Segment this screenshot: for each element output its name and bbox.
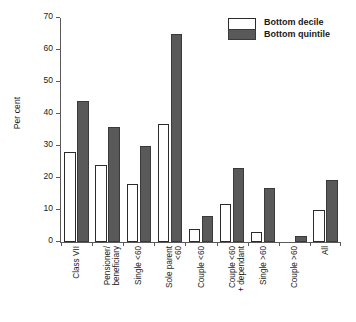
y-tick-mark bbox=[56, 17, 60, 18]
y-tick-label: 50 bbox=[44, 75, 53, 86]
bar-bottom-quintile bbox=[171, 34, 183, 242]
x-axis-labels: Class VIIPensioner/beneficiarySingle <60… bbox=[61, 246, 341, 322]
legend-labels: Bottom decile Bottom quintile bbox=[264, 17, 330, 40]
bar-group bbox=[123, 18, 154, 242]
x-axis-label-line: All bbox=[321, 246, 330, 255]
bar-group bbox=[217, 18, 248, 242]
y-tick-mark bbox=[56, 49, 60, 50]
bar-bottom-decile bbox=[189, 229, 201, 242]
bar-bottom-quintile bbox=[140, 146, 152, 242]
legend-swatch-bottom-decile bbox=[228, 18, 256, 29]
bar-bottom-decile bbox=[64, 152, 76, 242]
legend-label-bottom-decile: Bottom decile bbox=[264, 17, 330, 29]
x-axis-label: Couple >60 bbox=[290, 246, 299, 322]
x-axis-label: Pensioner/beneficiary bbox=[103, 246, 122, 322]
bar-bottom-decile bbox=[313, 210, 325, 242]
y-axis-title: Per cent bbox=[12, 78, 22, 148]
bar-bottom-quintile bbox=[295, 236, 307, 242]
bars-layer bbox=[61, 18, 341, 242]
y-axis-tick: 50 bbox=[34, 81, 60, 82]
bar-group bbox=[185, 18, 216, 242]
y-tick-label: 40 bbox=[44, 107, 53, 118]
bar-group bbox=[279, 18, 310, 242]
x-axis-label-line: Couple <60 bbox=[197, 246, 206, 288]
x-axis-label: Single >60 bbox=[259, 246, 268, 322]
bar-bottom-quintile bbox=[264, 188, 276, 242]
bar-bottom-decile bbox=[95, 165, 107, 242]
y-axis-tick: 30 bbox=[34, 145, 60, 146]
x-axis-label: Couple <60+ dependant bbox=[228, 246, 247, 322]
bar-chart: Per cent 010203040506070 Class VIIPensio… bbox=[0, 0, 356, 322]
bar-bottom-decile bbox=[220, 204, 232, 242]
x-axis-label: Couple <60 bbox=[197, 246, 206, 322]
legend-swatch-bottom-quintile bbox=[228, 29, 256, 40]
y-tick-label: 10 bbox=[44, 203, 53, 214]
bar-group bbox=[310, 18, 341, 242]
x-axis-label-line: Pensioner/ bbox=[103, 246, 112, 285]
bar-group bbox=[154, 18, 185, 242]
y-axis-tick: 20 bbox=[34, 177, 60, 178]
bar-bottom-quintile bbox=[77, 101, 89, 242]
x-axis-label-line: beneficiary bbox=[113, 246, 122, 322]
y-tick-label: 0 bbox=[48, 235, 53, 246]
bar-group bbox=[248, 18, 279, 242]
x-axis-label-line: Class VII bbox=[72, 246, 81, 279]
x-axis-label-line: <60 bbox=[175, 246, 184, 322]
y-axis-tick: 60 bbox=[34, 49, 60, 50]
x-axis-label-line: + dependant bbox=[237, 246, 246, 322]
plot-area: 010203040506070 bbox=[60, 18, 341, 243]
y-tick-mark bbox=[56, 113, 60, 114]
legend-label-bottom-quintile: Bottom quintile bbox=[264, 29, 330, 41]
bar-bottom-quintile bbox=[108, 127, 120, 242]
x-axis-line bbox=[60, 242, 341, 243]
x-axis-label: Sole parent<60 bbox=[165, 246, 184, 322]
x-axis-label-line: Sole parent bbox=[165, 246, 174, 288]
bar-bottom-decile bbox=[158, 124, 170, 242]
y-tick-mark bbox=[56, 177, 60, 178]
legend-swatches bbox=[228, 18, 256, 40]
x-axis-label: All bbox=[321, 246, 330, 322]
x-axis-label-line: Couple >60 bbox=[290, 246, 299, 288]
bar-bottom-quintile bbox=[233, 168, 245, 242]
y-tick-mark bbox=[56, 145, 60, 146]
y-tick-label: 60 bbox=[44, 43, 53, 54]
y-tick-label: 30 bbox=[44, 139, 53, 150]
bar-group bbox=[92, 18, 123, 242]
y-axis-tick: 40 bbox=[34, 113, 60, 114]
y-tick-label: 70 bbox=[44, 11, 53, 22]
y-axis-tick: 10 bbox=[34, 209, 60, 210]
bar-bottom-decile bbox=[251, 232, 263, 242]
x-axis-label: Class VII bbox=[72, 246, 81, 322]
y-tick-label: 20 bbox=[44, 171, 53, 182]
y-tick-mark bbox=[56, 81, 60, 82]
bar-group bbox=[61, 18, 92, 242]
y-tick-mark bbox=[56, 241, 60, 242]
x-axis-label-line: Couple <60 bbox=[228, 246, 237, 288]
bar-bottom-decile bbox=[127, 184, 139, 242]
x-axis-label-line: Single >60 bbox=[259, 246, 268, 285]
x-axis-label: Single <60 bbox=[134, 246, 143, 322]
bar-bottom-quintile bbox=[326, 180, 338, 242]
bar-bottom-quintile bbox=[202, 216, 214, 242]
x-axis-label-line: Single <60 bbox=[134, 246, 143, 285]
y-axis-tick: 0 bbox=[34, 241, 60, 242]
y-axis-tick: 70 bbox=[34, 17, 60, 18]
legend: Bottom decile Bottom quintile bbox=[228, 17, 330, 40]
y-tick-mark bbox=[56, 209, 60, 210]
